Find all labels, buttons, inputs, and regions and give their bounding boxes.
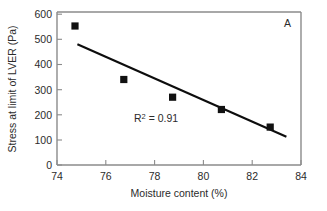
y-tick-label-600: 600	[34, 8, 52, 20]
y-tick-label-200: 200	[34, 109, 52, 121]
y-tick-label-100: 100	[34, 134, 52, 146]
x-tick-label-80: 80	[198, 170, 210, 182]
y-axis-tick-labels: 600 500 400 300 200 100 0	[34, 8, 52, 171]
y-axis-title: Stress at limit of LVER (Pa)	[6, 25, 18, 152]
x-tick-label-76: 76	[100, 170, 112, 182]
panel-label: A	[284, 17, 291, 29]
x-tick-label-82: 82	[246, 170, 258, 182]
r-squared-suffix: = 0.91	[146, 112, 179, 124]
y-tick-label-400: 400	[34, 58, 52, 70]
r-squared-annotation: R2 = 0.91	[134, 112, 178, 125]
y-axis-ticks	[57, 14, 62, 165]
figure-panel-a: 600 500 400 300 200 100 0 74 76 78 80 82…	[0, 0, 327, 211]
data-point-4	[218, 106, 225, 113]
x-tick-label-74: 74	[51, 170, 63, 182]
data-point-1	[71, 22, 78, 29]
x-axis-ticks	[57, 160, 301, 165]
trend-line	[77, 44, 286, 137]
y-tick-label-0: 0	[46, 159, 52, 171]
data-point-3	[169, 94, 176, 101]
data-point-2	[120, 76, 127, 83]
x-tick-label-78: 78	[149, 170, 161, 182]
y-tick-label-500: 500	[34, 33, 52, 45]
x-axis-tick-labels: 74 76 78 80 82 84	[51, 170, 307, 182]
x-tick-label-84: 84	[295, 170, 307, 182]
x-axis-title: Moisture content (%)	[131, 187, 228, 199]
y-tick-label-300: 300	[34, 84, 52, 96]
data-point-5	[267, 124, 274, 131]
scatter-plot: 600 500 400 300 200 100 0 74 76 78 80 82…	[0, 0, 327, 211]
